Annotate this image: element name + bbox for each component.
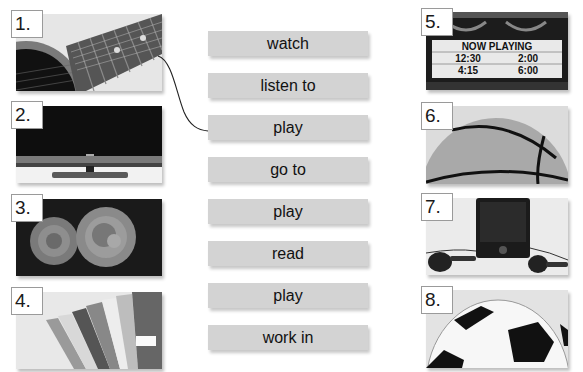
verb-label-play-2[interactable]: play xyxy=(208,199,368,224)
svg-text:4:15: 4:15 xyxy=(458,65,478,76)
verb-label-work-in[interactable]: work in xyxy=(208,325,368,350)
verb-label-watch[interactable]: watch xyxy=(208,31,368,56)
picture-number-5: 5. xyxy=(421,8,453,36)
picture-number-7: 7. xyxy=(421,193,453,221)
picture-number-4: 4. xyxy=(11,287,43,315)
svg-text:2:00: 2:00 xyxy=(518,53,538,64)
picture-number-1: 1. xyxy=(11,10,43,38)
verb-label-go-to[interactable]: go to xyxy=(208,157,368,182)
picture-number-8: 8. xyxy=(421,286,453,314)
svg-text:12:30: 12:30 xyxy=(455,53,481,64)
verb-label-play-1[interactable]: play xyxy=(208,115,368,140)
picture-number-6: 6. xyxy=(421,102,453,130)
picture-number-2: 2. xyxy=(11,101,43,129)
verb-label-play-3[interactable]: play xyxy=(208,283,368,308)
marquee-title: NOW PLAYING xyxy=(462,41,533,52)
verb-label-read[interactable]: read xyxy=(208,241,368,266)
verb-label-listen-to[interactable]: listen to xyxy=(208,73,368,98)
svg-text:6:00: 6:00 xyxy=(518,65,538,76)
picture-number-3: 3. xyxy=(11,194,43,222)
